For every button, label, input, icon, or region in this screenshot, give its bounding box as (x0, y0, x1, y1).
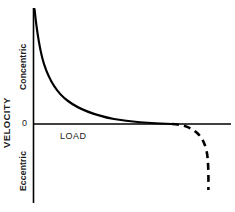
force-velocity-chart: VELOCITY Concentric Eccentric 0 LOAD (0, 0, 235, 212)
eccentric-curve (172, 124, 208, 190)
y-axis-title: VELOCITY (2, 97, 12, 148)
region-label-eccentric: Eccentric (19, 151, 28, 191)
y-axis-tick-label-zero: 0 (22, 119, 27, 128)
x-axis-title: LOAD (60, 132, 87, 141)
chart-canvas (0, 0, 235, 212)
region-label-concentric: Concentric (19, 44, 28, 90)
concentric-curve (35, 9, 173, 124)
